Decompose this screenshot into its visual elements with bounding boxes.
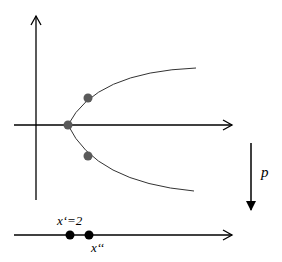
diagram-canvas: p x‘=2 x‘‘ (0, 0, 282, 262)
parabola-curve (68, 68, 196, 191)
upper-branch-point (84, 94, 93, 103)
x-double-prime-point (85, 231, 94, 240)
x-double-prime-label: x‘‘ (90, 240, 104, 255)
projection-label: p (260, 164, 269, 180)
x-prime-label: x‘=2 (56, 213, 83, 228)
x-prime-point (66, 231, 75, 240)
vertex-point (64, 121, 73, 130)
lower-branch-point (84, 152, 93, 161)
